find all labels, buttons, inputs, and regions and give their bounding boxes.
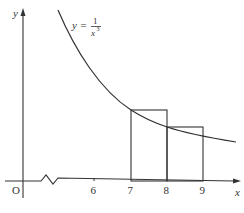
x-tick-label-8: 8 — [164, 184, 170, 196]
y-axis-arrow-icon — [21, 8, 26, 16]
x-axis-label: x — [234, 186, 240, 198]
origin-label: O — [12, 184, 20, 196]
function-label-exponent: 3 — [97, 26, 100, 32]
function-label-denominator: x — [90, 28, 95, 38]
x-axis-arrow-icon — [233, 179, 241, 184]
x-axis — [5, 175, 234, 184]
x-tick-label-7: 7 — [128, 184, 134, 196]
x-tick-label-6: 6 — [91, 184, 97, 196]
rectangle-7-to-8 — [131, 110, 167, 181]
y-axis-label: y — [12, 7, 18, 19]
function-label-lhs: y = — [71, 19, 87, 31]
function-label-numerator: 1 — [93, 16, 98, 26]
diagram-canvas: y x O 6 7 8 9 y = 1 x 3 — [0, 0, 244, 213]
x-tick-label-9: 9 — [200, 184, 206, 196]
